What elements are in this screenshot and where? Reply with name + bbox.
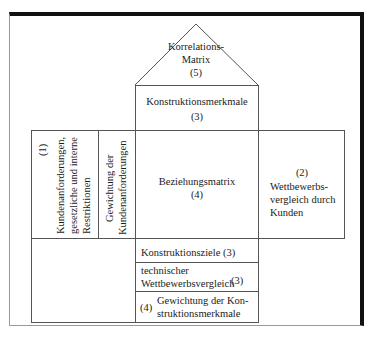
characteristic-weighting-number: (4) bbox=[140, 301, 152, 314]
customer-requirements-label-3: Restriktionen bbox=[80, 177, 93, 234]
relationship-matrix-label: Beziehungsmatrix bbox=[135, 175, 259, 188]
bottom-left-empty-box bbox=[31, 238, 136, 323]
roof-label-2: Matrix bbox=[150, 53, 242, 66]
design-characteristics-label: Konstruktionsmerkmale bbox=[135, 95, 259, 108]
customer-comparison-label-1: Wettbewerbs- bbox=[270, 180, 328, 193]
customer-comparison-label-2: vergleich durch bbox=[270, 193, 335, 206]
roof-label-1: Korrelations- bbox=[150, 40, 242, 53]
roof-number: (5) bbox=[150, 66, 242, 79]
characteristic-weighting-label-2: struktionsmerkmale bbox=[157, 307, 240, 320]
customer-comparison-number: (2) bbox=[262, 166, 342, 179]
technical-comparison-label-2: Wettbewerbsvergleich bbox=[141, 277, 234, 290]
customer-requirements-number: (1) bbox=[36, 144, 49, 156]
technical-comparison-label-1: technischer bbox=[141, 264, 189, 277]
customer-requirements-label-1: Kundenanforderungen, bbox=[54, 137, 67, 234]
customer-requirements-label-2: gesetzliche und interne bbox=[67, 137, 80, 234]
technical-comparison-number: (3) bbox=[231, 274, 243, 287]
relationship-matrix-number: (4) bbox=[135, 188, 259, 201]
requirement-weighting-label-2: Kundenanforderungen bbox=[116, 141, 129, 235]
characteristic-weighting-label-1: Gewichtung der Kon- bbox=[157, 294, 249, 307]
design-targets-label: Konstruktionsziele (3) bbox=[141, 246, 235, 259]
design-characteristics-box bbox=[135, 85, 259, 131]
customer-comparison-label-3: Kunden bbox=[270, 206, 303, 219]
design-characteristics-number: (3) bbox=[135, 110, 259, 123]
requirement-weighting-label-1: Gewichtung der bbox=[103, 155, 116, 222]
